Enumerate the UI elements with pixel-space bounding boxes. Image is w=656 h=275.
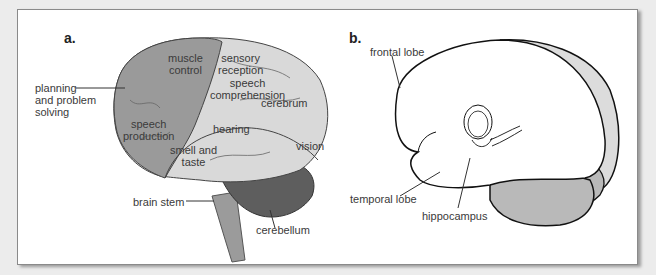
panel-b-letter: b.	[349, 30, 361, 46]
label-speech-production: speech production	[123, 118, 174, 142]
leader-frontal-lobe	[392, 56, 400, 88]
label-hippocampus: hippocampus	[422, 210, 487, 222]
label-smell-taste: smell and taste	[170, 144, 217, 168]
label-line: production	[123, 130, 174, 142]
label-vision: vision	[296, 140, 324, 152]
label-line: muscle	[168, 52, 203, 64]
label-brain-stem: brain stem	[133, 196, 184, 208]
label-muscle-control: muscle control	[168, 52, 203, 76]
label-line: solving	[35, 106, 96, 118]
label-cerebrum: cerebrum	[261, 97, 307, 109]
brain-schematic	[396, 40, 619, 226]
label-temporal-lobe: temporal lobe	[350, 193, 417, 205]
label-line: speech	[210, 77, 285, 89]
label-line: sensory	[218, 52, 263, 64]
panel-a-letter: a.	[64, 30, 76, 46]
brain-illustrations	[0, 0, 656, 275]
label-line: taste	[170, 156, 217, 168]
label-hearing: hearing	[213, 123, 250, 135]
label-planning: planning and problem solving	[35, 82, 96, 118]
label-line: planning	[35, 82, 96, 94]
label-line: and problem	[35, 94, 96, 106]
label-cerebellum: cerebellum	[256, 224, 310, 236]
label-frontal-lobe: frontal lobe	[370, 46, 424, 58]
label-line: smell and	[170, 144, 217, 156]
label-line: reception	[218, 64, 263, 76]
label-line: speech	[123, 118, 174, 130]
label-sensory-reception: sensory reception	[218, 52, 263, 76]
label-line: control	[168, 64, 203, 76]
